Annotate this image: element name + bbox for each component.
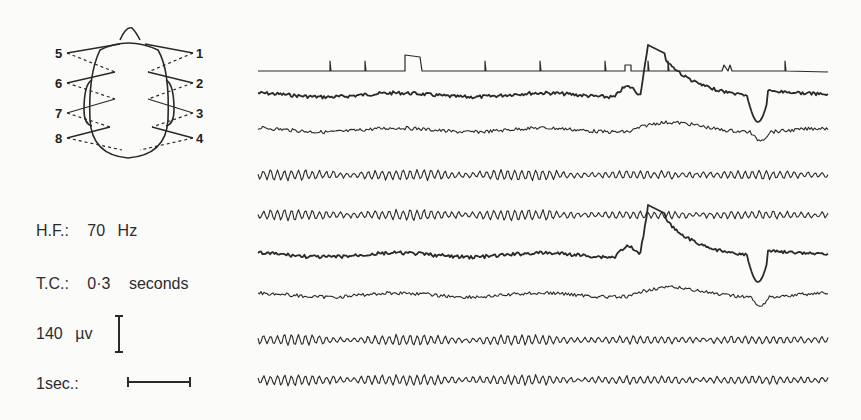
amplitude-scale-bar-icon (112, 314, 126, 354)
eeg-traces-chart (250, 40, 840, 400)
hf-unit: Hz (118, 222, 138, 239)
marker-channel-trace (258, 55, 828, 72)
electrode-label: 5 (55, 46, 62, 61)
eeg-trace-ch7 (258, 334, 828, 345)
electrode-montage-diagram: 5 6 7 8 1 2 3 4 (40, 20, 240, 180)
eeg-trace-ch3 (258, 170, 828, 181)
time-label: 1sec.: (36, 375, 79, 392)
eeg-trace-ch2 (258, 121, 828, 141)
amplitude-calibration: 140 µv (36, 325, 92, 343)
tc-unit: seconds (129, 275, 189, 292)
time-scale-bar-icon (126, 374, 194, 390)
high-filter-param: H.F.: 70 Hz (36, 222, 137, 240)
electrode-label: 8 (55, 131, 62, 146)
electrode-label: 7 (55, 106, 62, 121)
hf-label: H.F.: (36, 222, 69, 239)
time-calibration: 1sec.: (36, 375, 79, 393)
tc-value: 0·3 (87, 275, 110, 292)
hf-value: 70 (87, 222, 105, 239)
tc-label: T.C.: (36, 275, 69, 292)
eeg-trace-ch4 (258, 209, 828, 221)
amp-value: 140 (36, 325, 63, 342)
head-outline-icon (40, 20, 240, 180)
electrode-label: 3 (196, 106, 203, 121)
electrode-label: 6 (55, 76, 62, 91)
eeg-trace-ch6 (258, 286, 828, 307)
eeg-trace-ch1 (258, 45, 828, 122)
electrode-label: 1 (196, 46, 203, 61)
eeg-trace-ch8 (258, 375, 828, 386)
electrode-label: 4 (196, 131, 203, 146)
amp-unit: µv (75, 325, 92, 342)
time-constant-param: T.C.: 0·3 seconds (36, 275, 189, 293)
electrode-label: 2 (196, 76, 203, 91)
